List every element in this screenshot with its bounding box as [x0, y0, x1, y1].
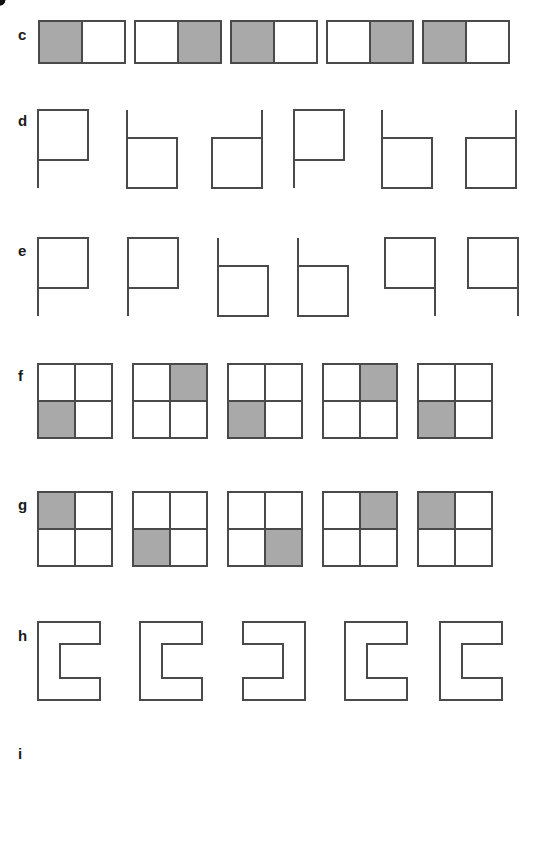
- stimulus-sheet: cdefghi: [0, 0, 545, 854]
- row-canvas-i: [0, 0, 545, 854]
- figure-i-5: [0, 0, 5, 5]
- figure-i-5-endpoint-dot: [0, 0, 5, 5]
